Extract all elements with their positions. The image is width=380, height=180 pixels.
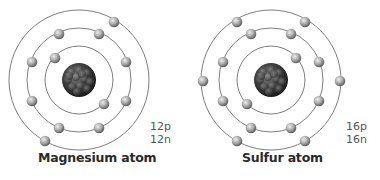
- electron: [94, 123, 105, 134]
- electron: [232, 17, 243, 28]
- electron: [291, 53, 302, 64]
- electron: [218, 57, 229, 68]
- electron: [121, 57, 132, 68]
- electron: [218, 96, 229, 107]
- sulfur-neutrons: 16n: [346, 133, 367, 146]
- electron: [121, 96, 132, 107]
- nucleon: [275, 85, 283, 93]
- nucleon: [78, 70, 86, 78]
- magnesium-protons: 12p: [150, 120, 171, 133]
- magnesium-neutrons: 12n: [150, 133, 171, 146]
- electron: [300, 136, 311, 147]
- sulfur-protons: 16p: [346, 120, 367, 133]
- electron: [242, 99, 253, 110]
- electron: [50, 53, 61, 64]
- electron: [27, 57, 38, 68]
- electron: [94, 29, 105, 40]
- electron: [99, 99, 110, 110]
- nucleon: [265, 88, 273, 96]
- electron: [300, 17, 311, 28]
- electron: [40, 136, 51, 147]
- nucleon: [257, 72, 265, 80]
- magnesium-atom: [9, 10, 149, 150]
- nucleon: [65, 72, 73, 80]
- nucleon: [83, 85, 91, 93]
- nucleon: [270, 70, 278, 78]
- electron: [198, 76, 209, 87]
- electron: [335, 76, 346, 87]
- electron: [246, 123, 257, 134]
- electron: [286, 123, 297, 134]
- electron: [246, 29, 257, 40]
- electron: [286, 29, 297, 40]
- electron: [54, 29, 65, 40]
- electron: [109, 17, 120, 28]
- electron: [314, 57, 325, 68]
- sulfur-particle-counts: 16p 16n: [346, 120, 367, 146]
- magnesium-atom-label: Magnesium atom: [38, 150, 156, 165]
- electron: [54, 123, 65, 134]
- electron: [27, 96, 38, 107]
- electron: [232, 136, 243, 147]
- sulfur-atom-label: Sulfur atom: [242, 150, 323, 165]
- magnesium-particle-counts: 12p 12n: [150, 120, 171, 146]
- nucleon: [73, 88, 81, 96]
- sulfur-atom: [198, 10, 346, 150]
- electron: [314, 96, 325, 107]
